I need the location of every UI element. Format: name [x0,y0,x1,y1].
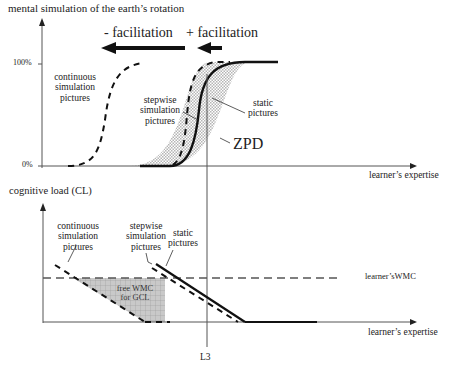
bottom-x-axis-arrow-icon [410,319,417,325]
tick-0-label: 0% [22,161,33,170]
bottom-static-label: static pictures [165,228,201,249]
bottom-continuous-label: continuous simulation pictures [52,221,104,252]
zpd-label: ZPD [233,135,263,153]
top-y-axis-arrow-icon [39,18,45,26]
minus-facilitation-label: - facilitation [104,25,173,40]
top-static-label: static pictures [245,98,281,119]
free-wmc-label: free WMC for GCL [112,284,158,303]
top-y-axis-title: mental simulation of the earth’s rotatio… [8,2,184,14]
minus-facilitation-arrowhead-icon [101,42,116,54]
top-continuous-label: continuous simulation pictures [50,72,100,103]
bottom-y-axis-title: cognitive load (CL) [9,185,92,197]
plus-facilitation-arrowhead-icon [197,42,211,54]
static-cl-line [156,264,245,322]
plus-facilitation-label: + facilitation [186,25,258,40]
tick-100-label: 100% [13,59,32,68]
learner-wmc-label: learner’sWMC [365,272,416,281]
bottom-y-axis-arrow-icon [40,203,46,211]
top-x-axis-arrow-icon [410,163,417,169]
l3-label: L3 [200,352,211,362]
top-stepwise-label: stepwise simulation pictures [135,95,185,126]
top-x-axis-label: learner’s expertise [369,170,439,180]
bottom-stepwise-label: stepwise simulation pictures [121,221,171,252]
bottom-x-axis-label: learner’s expertise [368,327,438,337]
